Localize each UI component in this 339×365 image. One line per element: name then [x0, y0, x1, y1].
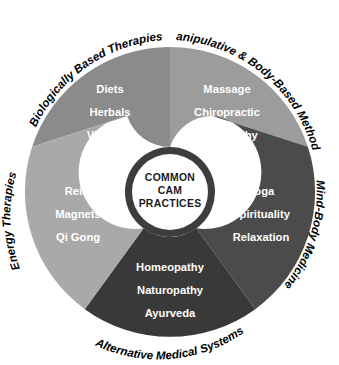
cam-wheel-chart: COMMON CAM PRACTICES Diets Herbals Vitam… [0, 0, 339, 365]
item-massage: Massage [203, 83, 250, 95]
item-relaxation: Relaxation [233, 231, 290, 243]
item-chiropractic: Chiropractic [194, 106, 260, 118]
center-label-line2: CAM [158, 185, 183, 196]
center-label-line3: PRACTICES [139, 198, 202, 209]
item-osteopathy: Osteopathy [196, 129, 258, 141]
item-reiki: Reiki [65, 185, 92, 197]
item-naturopathy: Naturopathy [137, 284, 204, 296]
item-diets: Diets [96, 83, 123, 95]
item-vitamins: Vitamins [87, 129, 133, 141]
cam-practices-diagram: COMMON CAM PRACTICES Diets Herbals Vitam… [0, 0, 339, 365]
item-ayurveda: Ayurveda [145, 307, 196, 319]
item-yoga: Yoga [248, 185, 275, 197]
item-herbals: Herbals [89, 106, 130, 118]
item-spirituality: Spirituality [232, 208, 291, 220]
center-label-line1: COMMON [145, 172, 195, 183]
item-magnets: Magnets [55, 208, 100, 220]
item-homeopathy: Homeopathy [136, 261, 205, 273]
item-qigong: Qi Gong [56, 231, 100, 243]
